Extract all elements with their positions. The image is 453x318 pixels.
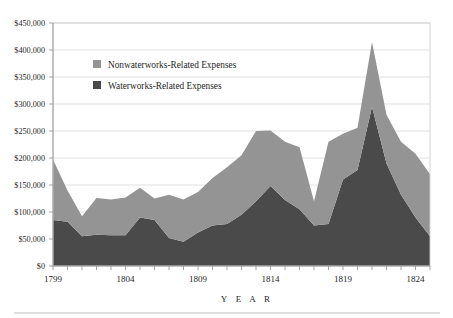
x-tick-label: 1814 [262, 274, 281, 284]
y-tick-label: $0 [37, 262, 45, 271]
x-tick-label: 1804 [117, 274, 136, 284]
x-tick-label: 1809 [189, 274, 208, 284]
chart-figure: $0$50,000$100,000$150,000$200,000$250,00… [0, 0, 453, 318]
y-tick-label: $50,000 [18, 235, 45, 244]
legend-label-waterworks: Waterworks-Related Expenses [108, 81, 222, 91]
x-axis-title: Y E A R [221, 294, 273, 304]
y-tick-label: $150,000 [14, 181, 45, 190]
y-tick-label: $200,000 [14, 154, 45, 163]
y-tick-label: $450,000 [14, 19, 45, 28]
y-tick-label: $400,000 [14, 46, 45, 55]
stacked-area-chart: $0$50,000$100,000$150,000$200,000$250,00… [0, 0, 453, 318]
legend-swatch-nonwaterworks [93, 60, 101, 68]
y-tick-label: $350,000 [14, 73, 45, 82]
legend-label-nonwaterworks: Nonwaterworks-Related Expenses [108, 60, 237, 70]
y-tick-label: $250,000 [14, 127, 45, 136]
x-tick-label: 1819 [334, 274, 353, 284]
legend-swatch-waterworks [93, 81, 101, 89]
x-tick-label: 1799 [44, 274, 63, 284]
y-tick-label: $300,000 [14, 100, 45, 109]
x-tick-label: 1824 [407, 274, 426, 284]
y-tick-label: $100,000 [14, 208, 45, 217]
